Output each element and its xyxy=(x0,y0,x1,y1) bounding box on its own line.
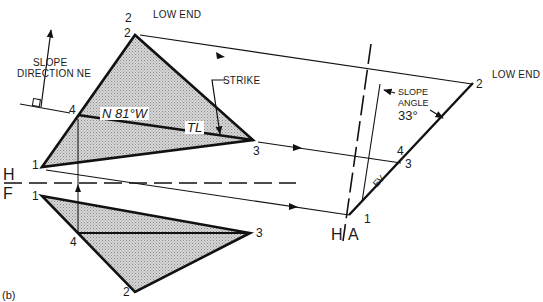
fold-label-h: H xyxy=(3,167,15,183)
aux-point-2-label: 2 xyxy=(476,78,483,90)
top-point-4-label: 4 xyxy=(69,104,76,116)
slope-angle-label-line1: SLOPE xyxy=(398,88,428,97)
fold-label-h-aux: H xyxy=(331,227,343,243)
fold-label-a: A xyxy=(348,227,359,243)
slope-direction-label-line1: SLOPE xyxy=(33,58,67,68)
aux-point-1-label: 1 xyxy=(364,213,371,225)
top-point-3-label: 3 xyxy=(253,145,260,157)
front-point-4-label: 4 xyxy=(70,236,77,248)
descriptive-geometry-diagram xyxy=(0,0,543,302)
true-length-label: TL xyxy=(185,121,204,134)
top-point-2-outer-label: 2 xyxy=(125,12,132,24)
top-point-2-label: 2 xyxy=(124,27,131,39)
top-point-1-label: 1 xyxy=(32,159,39,171)
low-end-label-aux: LOW END xyxy=(492,70,540,80)
slope-direction-label-line2: DIRECTION NE xyxy=(17,69,91,79)
bearing-label: N 81°W xyxy=(100,107,149,120)
front-point-1-label: 1 xyxy=(32,190,39,202)
top-view-plane xyxy=(42,35,253,167)
aux-point-3-label: 3 xyxy=(405,158,412,170)
slope-angle-value: 33° xyxy=(398,109,418,122)
front-point-3-label: 3 xyxy=(256,227,263,239)
fold-label-f: F xyxy=(3,186,13,202)
low-end-label-top: LOW END xyxy=(153,10,201,20)
strike-label: STRIKE xyxy=(223,76,260,86)
aux-point-4-label: 4 xyxy=(397,145,404,157)
figure-label: (b) xyxy=(2,290,15,301)
front-point-2-label: 2 xyxy=(123,286,130,298)
slope-angle-label-line2: ANGLE xyxy=(398,99,429,108)
